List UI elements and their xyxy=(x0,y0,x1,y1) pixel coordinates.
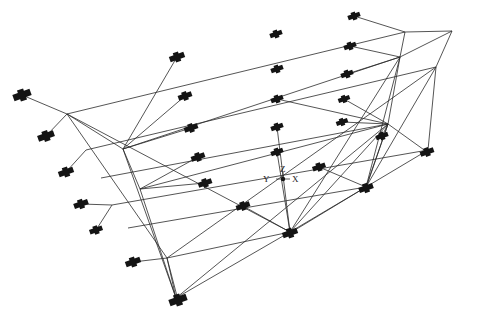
sensor-marker-icon xyxy=(311,161,326,174)
sensor-marker-icon xyxy=(270,146,285,158)
sensor-marker-icon xyxy=(343,40,358,52)
sensor-marker-icon xyxy=(72,197,89,211)
sensor-marker-icon xyxy=(183,121,199,134)
sensor-marker-icon xyxy=(167,291,188,308)
sensor-marker-icon xyxy=(11,86,32,103)
sensor-marker-icon xyxy=(124,255,142,270)
sensor-marker-icon xyxy=(419,145,435,158)
frame-member xyxy=(140,189,176,298)
frame-member xyxy=(400,31,452,57)
frame-member xyxy=(123,149,140,189)
frame-member xyxy=(290,124,388,232)
sensor-marker-icon xyxy=(269,28,284,40)
marker-leaders xyxy=(22,16,427,300)
frame-member xyxy=(123,149,176,298)
sensor-marker-icon xyxy=(337,93,351,104)
sensor-marker-icon xyxy=(168,50,186,65)
sensor-marker-icon xyxy=(235,199,251,212)
marker-leader-line xyxy=(347,57,400,74)
sensor-marker-icon xyxy=(177,89,193,102)
frame-member xyxy=(123,57,400,149)
marker-leader-line xyxy=(350,46,400,57)
frame-member xyxy=(128,187,366,228)
sensor-marker-icon xyxy=(270,63,285,75)
sensor-marker-icon xyxy=(270,121,285,133)
marker-leader-line xyxy=(96,205,112,230)
frame-member xyxy=(290,57,400,232)
marker-leader-line xyxy=(319,167,366,187)
frame-member xyxy=(176,232,290,298)
sensor-marker-icon xyxy=(88,224,103,237)
sensor-markers xyxy=(11,10,435,309)
sensor-marker-icon xyxy=(375,130,390,142)
frame-members xyxy=(67,31,452,298)
marker-leader-line xyxy=(344,99,388,124)
frame-member xyxy=(366,57,400,187)
axis-label-y: Y xyxy=(263,174,270,184)
frame-member xyxy=(400,32,405,57)
marker-leader-line xyxy=(123,96,185,149)
sensor-marker-icon xyxy=(357,181,374,195)
sensor-marker-icon xyxy=(335,116,349,127)
marker-leader-line xyxy=(388,124,427,152)
frame-member xyxy=(436,31,452,67)
marker-leader-line xyxy=(167,258,178,300)
wireframe-canvas: X Y Z xyxy=(0,0,479,319)
sensor-marker-icon xyxy=(57,165,75,180)
marker-leader-line xyxy=(22,95,67,114)
sensor-marker-icon xyxy=(190,150,206,163)
frame-member xyxy=(167,67,436,258)
sensor-marker-icon xyxy=(347,10,362,22)
frame-member xyxy=(67,114,123,149)
marker-leader-line xyxy=(354,16,405,32)
coordinate-axes: X Y Z xyxy=(263,164,299,184)
sensor-marker-icon xyxy=(36,128,55,144)
frame-member xyxy=(405,31,452,32)
sensor-marker-icon xyxy=(340,68,355,80)
frame-member xyxy=(112,150,428,205)
structure-diagram: X Y Z xyxy=(0,0,479,319)
sensor-marker-icon xyxy=(281,226,299,241)
axis-label-x: X xyxy=(292,174,299,184)
